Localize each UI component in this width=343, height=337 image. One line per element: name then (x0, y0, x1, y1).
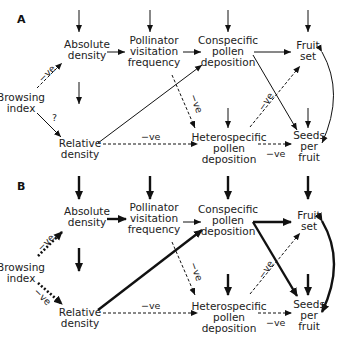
node-absolute-density: Absolute density (64, 39, 110, 61)
panel-label: B (17, 180, 25, 193)
node-seeds-per-fruit: Seeds per fruit (293, 299, 325, 332)
panel-label: A (17, 13, 26, 26)
panel-a: A Absolute density Pollinator visitation… (0, 0, 343, 168)
node-heterospecific-pollen-deposition: Heterospecific pollen deposition (191, 301, 266, 334)
node-seeds-per-fruit: Seeds per fruit (293, 130, 325, 163)
edge-label-heterospecific-seeds: −ve (266, 148, 285, 159)
node-pollinator-visitation-frequency: Pollinator visitation frequency (128, 35, 181, 68)
panel-b: B Absolute density Pollinator visitation… (0, 166, 343, 334)
edge-label-heterospecific-seeds: −ve (266, 317, 285, 328)
edge-label-browse-relative: ? (52, 112, 57, 123)
panel-a-arrows (0, 0, 343, 168)
node-fruit-set: Fruit set (296, 40, 319, 62)
edge-label-relative-heterospecific: −ve (141, 131, 160, 142)
node-absolute-density: Absolute density (64, 206, 110, 228)
node-browsing-index: Browsing index (0, 92, 45, 114)
node-conspecific-pollen-deposition: Conspecific pollen deposition (198, 35, 258, 68)
node-pollinator-visitation-frequency: Pollinator visitation frequency (128, 202, 181, 235)
node-fruit-set: Fruit set (297, 210, 320, 232)
node-browsing-index: Browsing index (0, 262, 45, 284)
node-relative-density: Relative density (59, 138, 101, 160)
panel-b-arrows (0, 166, 343, 334)
edge-label-relative-heterospecific: −ve (141, 300, 160, 311)
node-heterospecific-pollen-deposition: Heterospecific pollen deposition (191, 132, 266, 165)
node-conspecific-pollen-deposition: Conspecific pollen deposition (198, 204, 258, 237)
node-relative-density: Relative density (59, 307, 101, 329)
